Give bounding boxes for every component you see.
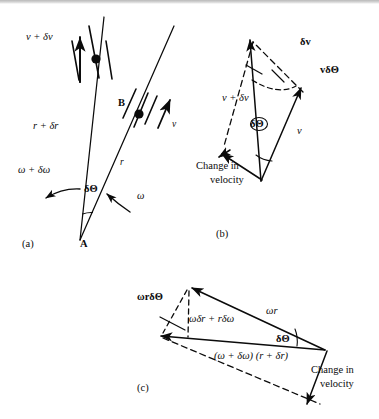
label-a-point-a: A <box>80 238 88 249</box>
particle-b-dot <box>134 109 143 118</box>
label-a-delta-theta: δΘ <box>84 183 98 194</box>
panel-c-geometry <box>160 288 327 404</box>
vector-b-v <box>261 88 301 181</box>
arc-v-delta-theta <box>252 80 296 90</box>
label-c-omega-r: ωr <box>266 305 278 316</box>
label-b-change-in-velocity-line2: velocity <box>210 174 244 185</box>
tick-delta-v <box>246 65 262 74</box>
particle-upper-dot <box>91 54 100 63</box>
hatch-a2 <box>89 26 99 78</box>
angle-arc-c <box>295 329 297 346</box>
hatch-a1 <box>72 41 79 80</box>
label-b-v-delta-theta: vδΘ <box>320 64 339 75</box>
label-c-change-in-velocity-line2: velocity <box>320 378 354 389</box>
label-c-omega-plus-domega-times-r-plus-dr: (ω + δω) (r + δr) <box>214 350 288 361</box>
arrow-omega <box>107 194 130 212</box>
dashed-c-left-edge <box>163 290 187 333</box>
hatch-b3 <box>145 96 157 124</box>
label-b-delta-theta: δΘ <box>250 118 264 129</box>
label-a-point-b: B <box>118 97 125 108</box>
panel-a-geometry <box>46 17 174 240</box>
tick-v-delta-theta <box>272 70 284 82</box>
label-c-omega-r-delta-theta: ωrδΘ <box>137 291 163 302</box>
label-b-change-in-velocity-line1: Change in <box>196 160 239 171</box>
label-c-change-in-velocity-line1: Change in <box>311 364 354 375</box>
label-a-v: v <box>172 120 176 130</box>
panel-tag-c: (c) <box>137 382 149 393</box>
label-a-v-plus-dv: v + δv <box>26 31 53 42</box>
label-c-omega-dr-plus-r-domega: ωδr + rδω <box>189 313 234 324</box>
label-b-v: v <box>297 125 302 136</box>
panel-tag-a: (a) <box>22 238 34 249</box>
label-b-v-plus-dv: v + δv <box>222 92 249 103</box>
figure-vector-layer <box>0 0 379 419</box>
physics-figure: v + δv r + δr ω + δω δΘ ω r v A B (a) δv… <box>0 0 379 419</box>
label-a-r: r <box>120 158 124 168</box>
tick-c-omega-r-delta-theta <box>160 317 185 330</box>
panel-tag-b: (b) <box>216 228 228 239</box>
vector-v <box>158 100 170 128</box>
vector-b-v-plus-dv <box>250 40 261 181</box>
label-c-delta-theta: δΘ <box>276 333 290 344</box>
label-a-omega: ω <box>137 190 144 201</box>
label-b-delta-v: δv <box>300 36 311 47</box>
hatch-a3 <box>106 41 112 79</box>
label-a-omega-plus-domega: ω + δω <box>18 164 50 175</box>
label-a-r-plus-dr: r + δr <box>33 120 58 131</box>
arrow-omega-plus-domega <box>46 189 80 198</box>
radius-r-plus-dr-line <box>80 17 104 240</box>
